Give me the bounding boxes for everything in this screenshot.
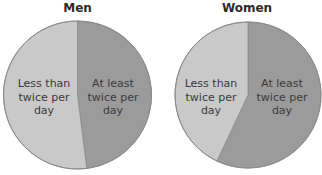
men-label-at-least-twice: At least twice per day <box>88 77 139 118</box>
men-pie-chart: Men Less than twice per day At least twi… <box>0 0 155 175</box>
women-label-at-least-twice: At least twice per day <box>257 77 308 118</box>
men-label-less-than-twice: Less than twice per day <box>18 77 71 118</box>
women-label-less-than-twice: Less than twice per day <box>185 77 238 118</box>
women-pie-chart: Women Less than twice per day At least t… <box>172 0 322 175</box>
